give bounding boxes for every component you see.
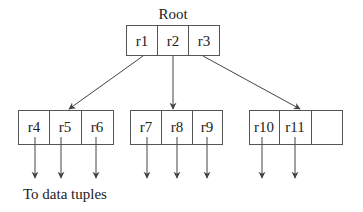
leaf-entry-r8: r8 [171, 119, 184, 135]
leaf-entry-r11: r11 [285, 119, 304, 135]
caption: To data tuples [23, 186, 107, 202]
leaf-entry-r7: r7 [140, 119, 153, 135]
root-entry-r1: r1 [136, 33, 149, 49]
leaf-entry-r10: r10 [254, 119, 274, 135]
root-node: r1 r2 r3 [127, 26, 220, 56]
leaf-entry-r4: r4 [28, 119, 41, 135]
root-entry-r2: r2 [167, 33, 180, 49]
root-label: Root [158, 6, 188, 22]
leaf-entry-r5: r5 [59, 119, 72, 135]
leaf-entry-r6: r6 [91, 119, 104, 135]
pointer-r3-to-leaf3 [203, 56, 300, 109]
leaf-node-1: r4 r5 r6 [19, 111, 114, 145]
leaf-node-3: r10 r11 [250, 111, 343, 145]
rtree-diagram: Root r1 r2 r3 r4 r5 r6 r7 r8 r9 r10 r11 [0, 0, 363, 212]
leaf-entry-r9: r9 [201, 119, 214, 135]
pointer-r1-to-leaf1 [69, 56, 143, 109]
root-entry-r3: r3 [198, 33, 211, 49]
